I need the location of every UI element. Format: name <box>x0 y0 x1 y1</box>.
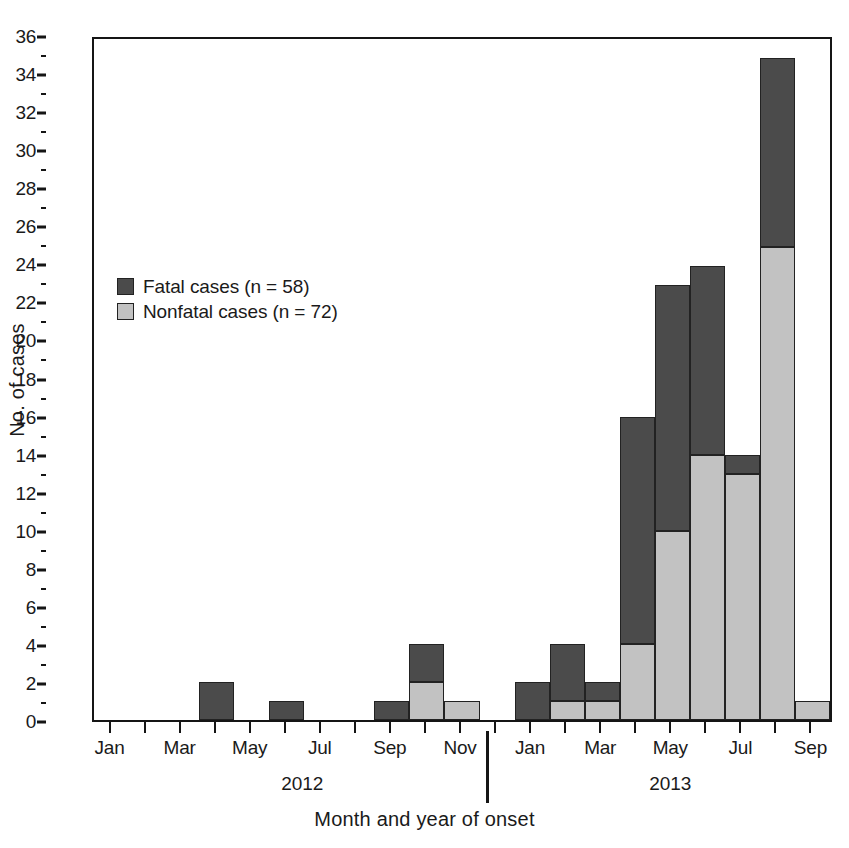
x-tick <box>564 722 566 733</box>
x-tick-label-may-2012: May <box>215 738 285 758</box>
chart-legend: Fatal cases (n = 58) Nonfatal cases (n =… <box>117 274 338 324</box>
x-tick-label-sep-2013: Sep <box>775 738 845 758</box>
chart-figure: No. of cases 024681012141618202224262830… <box>0 0 849 848</box>
bar-jun-2012 <box>269 701 304 720</box>
legend-label-fatal: Fatal cases (n = 58) <box>143 274 309 299</box>
x-tick <box>319 722 321 733</box>
bar-aug-2013 <box>760 58 795 720</box>
y-tick-label: 4 <box>26 636 36 655</box>
bar-segment-fatal <box>690 266 725 455</box>
bar-segment-fatal <box>515 682 550 720</box>
x-tick-label-nov-2012: Nov <box>425 738 495 758</box>
y-tick-label: 14 <box>15 446 36 465</box>
y-tick-major <box>37 454 46 457</box>
y-tick-label: 32 <box>15 103 36 122</box>
y-tick-major <box>37 492 46 495</box>
bar-sep-2012 <box>374 701 409 720</box>
y-tick-major <box>37 36 46 39</box>
x-tick <box>389 722 391 733</box>
y-tick-major <box>37 112 46 115</box>
bar-may-2013 <box>655 285 690 720</box>
x-tick-label-mar-2013: Mar <box>565 738 635 758</box>
bar-segment-fatal <box>374 701 409 720</box>
y-tick-major <box>37 264 46 267</box>
x-tick <box>599 722 601 733</box>
y-tick-major <box>37 682 46 685</box>
x-tick <box>704 722 706 733</box>
y-tick-minor <box>41 207 46 209</box>
bar-feb-2013 <box>550 644 585 720</box>
y-tick-minor <box>41 398 46 400</box>
legend-swatch-fatal-icon <box>117 278 134 295</box>
y-tick-major <box>37 644 46 647</box>
y-tick-minor <box>41 664 46 666</box>
x-tick-label-jan-2013: Jan <box>495 738 565 758</box>
y-tick-label: 2 <box>26 674 36 693</box>
legend-item-fatal: Fatal cases (n = 58) <box>117 274 338 299</box>
y-tick-minor <box>41 436 46 438</box>
x-tick-label-jul-2013: Jul <box>705 738 775 758</box>
y-tick-minor <box>41 283 46 285</box>
bar-apr-2013 <box>620 417 655 720</box>
bar-segment-nonfatal <box>795 701 830 720</box>
bar-sep-2013 <box>795 701 830 720</box>
x-tick <box>354 722 356 733</box>
bar-segment-fatal <box>620 417 655 644</box>
bar-segment-fatal <box>409 644 444 682</box>
y-tick-label: 10 <box>15 522 36 541</box>
y-tick-label: 28 <box>15 179 36 198</box>
y-tick-label: 22 <box>15 293 36 312</box>
bar-segment-fatal <box>199 682 234 720</box>
x-axis-title: Month and year of onset <box>0 808 849 831</box>
y-tick-minor <box>41 169 46 171</box>
y-tick-minor <box>41 702 46 704</box>
bar-jun-2013 <box>690 266 725 720</box>
bar-segment-nonfatal <box>760 247 795 720</box>
bar-segment-fatal <box>585 682 620 701</box>
bar-segment-nonfatal <box>444 701 479 720</box>
y-tick-label: 20 <box>15 331 36 350</box>
x-tick <box>144 722 146 733</box>
bar-segment-nonfatal <box>550 701 585 720</box>
y-tick-major <box>37 568 46 571</box>
bar-segment-nonfatal <box>620 644 655 720</box>
bar-segment-fatal <box>550 644 585 701</box>
y-tick-minor <box>41 131 46 133</box>
y-tick-label: 18 <box>15 370 36 389</box>
y-tick-minor <box>41 55 46 57</box>
y-tick-major <box>37 302 46 305</box>
bar-segment-nonfatal <box>725 474 760 720</box>
x-tick <box>284 722 286 733</box>
x-tick <box>774 722 776 733</box>
bar-segment-fatal <box>760 58 795 247</box>
bar-mar-2013 <box>585 682 620 720</box>
y-tick-major <box>37 416 46 419</box>
y-tick-major <box>37 226 46 229</box>
y-tick-minor <box>41 474 46 476</box>
bar-segment-nonfatal <box>655 531 690 720</box>
y-tick-minor <box>41 245 46 247</box>
bar-segment-fatal <box>725 455 760 474</box>
y-tick-label: 8 <box>26 560 36 579</box>
y-tick-major <box>37 721 46 724</box>
x-tick-label-may-2013: May <box>635 738 705 758</box>
year-divider <box>486 731 489 803</box>
x-tick <box>109 722 111 733</box>
x-tick <box>739 722 741 733</box>
y-tick-minor <box>41 321 46 323</box>
y-tick-minor <box>41 550 46 552</box>
y-tick-label: 34 <box>15 65 36 84</box>
legend-item-nonfatal: Nonfatal cases (n = 72) <box>117 299 338 324</box>
y-tick-major <box>37 606 46 609</box>
y-tick-label: 36 <box>15 27 36 46</box>
bar-jul-2013 <box>725 455 760 720</box>
x-tick <box>179 722 181 733</box>
y-tick-minor <box>41 626 46 628</box>
x-tick <box>494 722 496 733</box>
x-group-label-2012: 2012 <box>257 774 347 794</box>
legend-label-nonfatal: Nonfatal cases (n = 72) <box>143 299 338 324</box>
bar-segment-nonfatal <box>585 701 620 720</box>
y-tick-label: 12 <box>15 484 36 503</box>
x-tick <box>809 722 811 733</box>
y-tick-major <box>37 340 46 343</box>
